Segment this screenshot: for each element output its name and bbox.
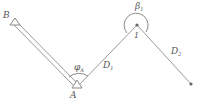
label-phi-A: φA (74, 62, 84, 73)
point-2-dot (189, 82, 192, 85)
label-1: 1 (134, 31, 139, 40)
segment-D2 (137, 25, 191, 84)
D2-subscript: 2 (177, 51, 181, 57)
D1-subscript: 1 (110, 65, 113, 71)
label-beta-1: β1 (134, 1, 143, 12)
angle-arc-A (69, 73, 88, 77)
diagram-svg: B A 1 φA β1 D1 D2 (0, 0, 202, 104)
D2-symbol: D (170, 46, 178, 56)
traverse-diagram: B A 1 φA β1 D1 D2 (0, 0, 202, 104)
label-A: A (69, 90, 77, 100)
phi-subscript: A (79, 67, 84, 73)
label-D1: D1 (102, 60, 113, 71)
segment-D1 (80, 25, 137, 84)
point-1-dot (135, 23, 138, 26)
baseline-BA (14, 22, 78, 87)
beta-subscript: 1 (140, 6, 143, 12)
station-B-triangle-icon (10, 18, 20, 25)
label-D2: D2 (170, 46, 181, 57)
label-B: B (2, 10, 10, 20)
D1-symbol: D (102, 60, 110, 70)
